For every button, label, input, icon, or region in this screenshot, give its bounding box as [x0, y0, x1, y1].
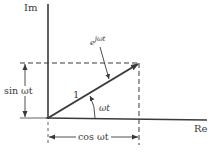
phasor-name-exponent: jωt	[95, 35, 106, 43]
magnitude-label: 1	[73, 90, 79, 100]
cos-projection-label: cos ωt	[76, 132, 111, 142]
sin-projection-label: sin ωt	[3, 86, 34, 96]
angle-label: ωt	[99, 104, 110, 113]
phasor-arrow	[48, 64, 138, 118]
phasor-name-label: ejωt	[90, 36, 105, 47]
re-axis-label: Re	[194, 124, 207, 134]
im-axis-label: Im	[24, 3, 37, 13]
real-axis	[46, 118, 207, 120]
angle-arc	[90, 96, 95, 118]
phasor-diagram: Im Re ejωt 1 ωt sin ωt cos ωt	[0, 0, 222, 155]
diagram-graphics	[0, 0, 222, 155]
